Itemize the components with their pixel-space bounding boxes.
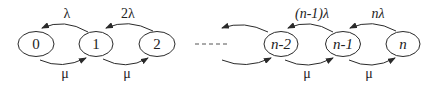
rate-label-mu-n2-n1: μ <box>303 67 311 81</box>
arrow-1-to-0 <box>42 24 88 32</box>
rate-label-n-1-lambda: (n-1)λ <box>295 7 329 21</box>
rate-label-2lambda: 2λ <box>121 7 135 21</box>
node-2-label: 2 <box>153 37 161 52</box>
arrow-n2-to-ellipsis <box>222 25 268 32</box>
birth-death-diagram: 0 1 2 n-2 n-1 n λ 2λ (n-1)λ nλ μ μ μ μ <box>0 0 436 86</box>
rate-label-mu-1-2: μ <box>123 67 131 81</box>
arrow-2-to-1 <box>106 24 153 31</box>
node-n-2-label: n-2 <box>271 37 291 52</box>
arrow-0-to-1 <box>40 58 86 65</box>
node-1-label: 1 <box>92 37 100 52</box>
arrow-ellipsis-to-n2 <box>222 58 271 65</box>
arrow-1-to-2 <box>103 58 148 65</box>
rate-label-mu-0-1: μ <box>61 67 69 81</box>
arrow-n2-to-n1 <box>285 58 333 65</box>
node-n-1-label: n-1 <box>333 37 353 52</box>
rate-label-lambda: λ <box>64 7 71 21</box>
arrow-n1-to-n <box>349 58 395 65</box>
node-n-label: n <box>399 37 407 52</box>
arrow-n-to-n1 <box>350 24 396 31</box>
rate-label-mu-n1-n: μ <box>365 67 373 81</box>
rate-label-n-lambda: nλ <box>371 7 384 21</box>
node-0-label: 0 <box>32 37 40 52</box>
arrow-n1-to-n2 <box>288 24 333 32</box>
